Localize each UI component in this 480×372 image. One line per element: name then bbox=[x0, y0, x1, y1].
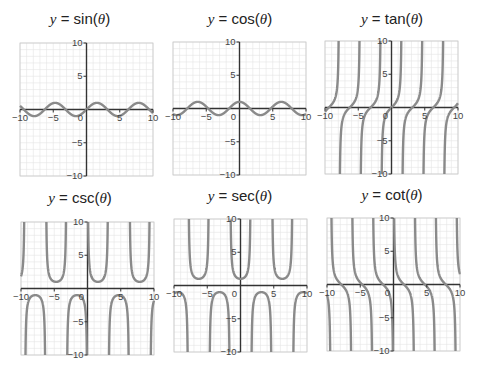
x-tick-label: 5 bbox=[424, 287, 429, 298]
x-tick-label: 10 bbox=[455, 287, 466, 298]
y-tick-label: −5 bbox=[379, 312, 390, 323]
x-tick-label: −5 bbox=[355, 287, 366, 298]
x-tick-label: −10 bbox=[319, 287, 335, 298]
y-tick-label: 5 bbox=[384, 245, 389, 256]
y-tick-label: −10 bbox=[373, 345, 389, 356]
x-tick-label: 0 bbox=[385, 287, 390, 298]
y-tick-label: 10 bbox=[379, 212, 390, 223]
chart-cot: −10−50510−10−5510 bbox=[0, 0, 480, 372]
